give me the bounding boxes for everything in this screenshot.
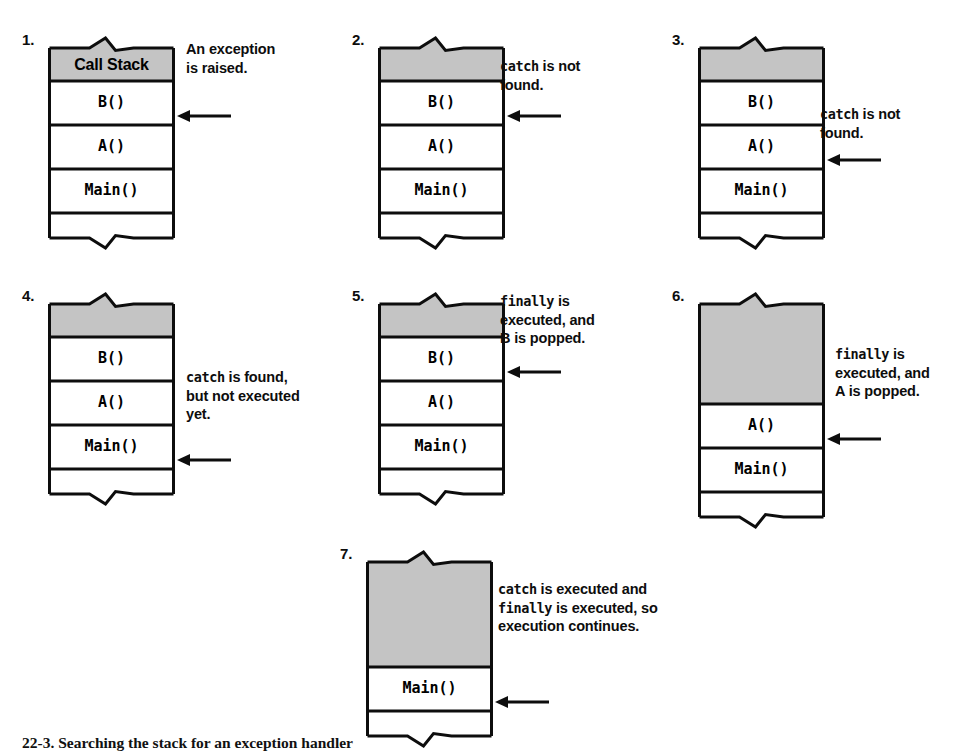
panel-annotation: catch is executed andfinally is executed…	[498, 580, 658, 636]
annotation-line: is raised.	[186, 59, 275, 78]
call-stack-diagram: A()Main()	[698, 294, 825, 527]
keyword-token: finally	[498, 600, 552, 616]
stack-frame-label: A()	[48, 395, 175, 410]
call-stack-diagram: B()A()Main()	[698, 38, 825, 248]
pointer-arrow-left-icon	[495, 694, 555, 710]
annotation-text: A is popped.	[835, 383, 920, 399]
panel-step-number: 1.	[22, 32, 34, 47]
annotation-text: An exception	[186, 41, 275, 57]
keyword-token: finally	[500, 293, 554, 309]
annotation-text: but not executed	[186, 388, 300, 404]
stack-frame-label: A()	[698, 139, 825, 154]
annotation-line: An exception	[186, 40, 275, 59]
annotation-line: catch is found,	[186, 368, 300, 387]
stack-header-label: Call Stack	[48, 57, 175, 72]
keyword-token: catch	[500, 58, 539, 74]
stack-frame-label: Main()	[48, 183, 175, 198]
panel-step-number: 2.	[352, 32, 364, 47]
annotation-line: executed, and	[835, 364, 930, 383]
panel-annotation: finally isexecuted, andA is popped.	[835, 345, 930, 401]
call-stack-diagram: Call StackB()A()Main()	[48, 38, 175, 248]
stack-frame-label: B()	[378, 95, 505, 110]
stack-frame-label: B()	[698, 95, 825, 110]
annotation-line: yet.	[186, 405, 300, 424]
panel-annotation: catch is notfound.	[820, 105, 900, 142]
annotation-line: B is popped.	[500, 329, 595, 348]
annotation-text: is raised.	[186, 60, 247, 76]
annotation-line: execution continues.	[498, 617, 658, 636]
stack-frame-label: B()	[48, 95, 175, 110]
annotation-line: catch is not	[820, 105, 900, 124]
annotation-text: executed, and	[835, 365, 930, 381]
stack-frame-label: A()	[378, 139, 505, 154]
annotation-text: B is popped.	[500, 330, 585, 346]
keyword-token: catch	[498, 581, 537, 597]
keyword-token: catch	[186, 369, 225, 385]
annotation-line: finally is	[835, 345, 930, 364]
stack-frame-label: Main()	[48, 439, 175, 454]
stack-frame-label: A()	[48, 139, 175, 154]
call-stack-diagram: Main()	[366, 552, 493, 746]
annotation-text: is not	[859, 106, 901, 122]
annotation-text: found.	[500, 77, 543, 93]
annotation-text: found.	[820, 125, 863, 141]
annotation-line: finally is	[500, 292, 595, 311]
keyword-token: catch	[820, 106, 859, 122]
annotation-text: executed, and	[500, 312, 595, 328]
panel-step-number: 4.	[22, 288, 34, 303]
pointer-arrow-left-icon	[827, 152, 887, 168]
pointer-arrow-left-icon	[507, 108, 567, 124]
annotation-text: is found,	[225, 369, 288, 385]
annotation-line: executed, and	[500, 311, 595, 330]
pointer-arrow-left-icon	[507, 364, 567, 380]
annotation-text: execution continues.	[498, 618, 639, 634]
annotation-text: is executed, so	[552, 600, 658, 616]
annotation-line: finally is executed, so	[498, 599, 658, 618]
stack-outline	[698, 294, 829, 531]
annotation-text: is executed and	[537, 581, 647, 597]
stack-frame-label: Main()	[378, 183, 505, 198]
annotation-line: catch is not	[500, 57, 580, 76]
stack-frame-label: B()	[48, 351, 175, 366]
annotation-text: is	[889, 346, 905, 362]
annotation-text: yet.	[186, 406, 210, 422]
annotation-text: is	[554, 293, 570, 309]
annotation-line: catch is executed and	[498, 580, 658, 599]
stack-frame-label: A()	[698, 418, 825, 433]
annotation-line: found.	[500, 76, 580, 95]
annotation-line: but not executed	[186, 387, 300, 406]
panel-annotation: catch is found,but not executedyet.	[186, 368, 300, 424]
figure-caption: 22-3. Searching the stack for an excepti…	[22, 734, 353, 752]
stack-frame-label: Main()	[698, 462, 825, 477]
annotation-text: is not	[539, 58, 581, 74]
panel-step-number: 3.	[672, 32, 684, 47]
pointer-arrow-left-icon	[827, 431, 887, 447]
stack-outline	[366, 552, 497, 750]
stack-frame-label: Main()	[698, 183, 825, 198]
panel-annotation: finally isexecuted, andB is popped.	[500, 292, 595, 348]
panel-annotation: catch is notfound.	[500, 57, 580, 94]
keyword-token: finally	[835, 346, 889, 362]
annotation-line: found.	[820, 124, 900, 143]
stack-frame-label: A()	[378, 395, 505, 410]
stack-frame-label: Main()	[378, 439, 505, 454]
pointer-arrow-left-icon	[177, 452, 237, 468]
panel-step-number: 5.	[352, 288, 364, 303]
panel-step-number: 7.	[340, 546, 352, 561]
panel-annotation: An exceptionis raised.	[186, 40, 275, 77]
stack-frame-label: Main()	[366, 681, 493, 696]
pointer-arrow-left-icon	[177, 108, 237, 124]
annotation-line: A is popped.	[835, 382, 930, 401]
stack-frame-label: B()	[378, 351, 505, 366]
call-stack-diagram: B()A()Main()	[378, 294, 505, 504]
call-stack-diagram: B()A()Main()	[48, 294, 175, 504]
panel-step-number: 6.	[672, 288, 684, 303]
call-stack-diagram: B()A()Main()	[378, 38, 505, 248]
